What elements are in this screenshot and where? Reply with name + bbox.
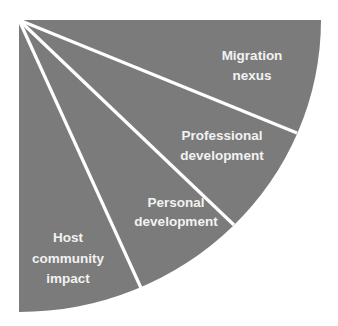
segment-label-line: development — [180, 148, 264, 163]
segment-label-line: Host — [53, 230, 84, 245]
segment-label-line: development — [134, 214, 218, 229]
segment-label-line: nexus — [232, 68, 271, 83]
segment-label-line: community — [32, 251, 105, 266]
segment-label-line: Migration — [222, 48, 283, 63]
segment-label-line: Professional — [181, 128, 262, 143]
quarter-fan-diagram: Migration nexus Professional development… — [0, 0, 338, 326]
segment-label-line: Personal — [147, 195, 204, 210]
segment-label-line: impact — [46, 271, 90, 286]
